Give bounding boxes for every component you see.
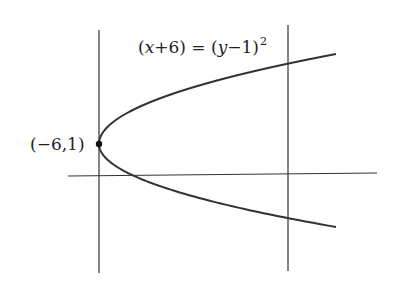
vertex-point xyxy=(96,141,102,147)
x-axis xyxy=(68,173,377,176)
eq-exponent: 2 xyxy=(260,35,267,48)
parabola-lower-branch xyxy=(99,144,336,227)
eq-open-paren: ( xyxy=(138,37,145,57)
eq-rhs: −1) xyxy=(227,37,259,57)
eq-middle: +6) = ( xyxy=(154,37,217,57)
eq-var-x: x xyxy=(145,37,155,57)
equation-label: (x+6) = (y−1)2 xyxy=(138,36,267,56)
eq-var-y: y xyxy=(218,37,228,57)
vertex-label: (−6,1) xyxy=(30,136,85,153)
parabola-upper-branch xyxy=(99,54,336,144)
